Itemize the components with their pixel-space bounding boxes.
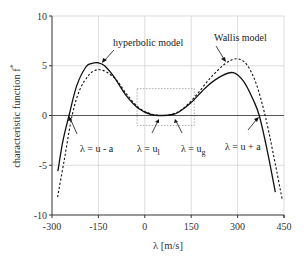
u-g-label: λ = ug xyxy=(181,143,206,157)
x-tick-label: -300 xyxy=(43,221,61,232)
y-axis-title: characteristic function f* xyxy=(9,64,22,168)
y-tick-label: 0 xyxy=(42,110,47,121)
u-plus-a-arrow xyxy=(248,119,257,130)
hyperbolic-model-label: hyperbolic model xyxy=(113,37,183,48)
characteristic-function-chart: -300-1500150300450-10-50510 λ [m/s] char… xyxy=(0,0,304,262)
x-tick-label: 300 xyxy=(230,221,245,232)
hyperbolic-model-curve xyxy=(58,63,275,193)
u-l-arrowhead-icon xyxy=(155,119,159,123)
u-g-arrow xyxy=(176,121,182,133)
y-tick-label: 10 xyxy=(37,11,47,22)
u-g-arrowhead-icon xyxy=(174,119,178,123)
y-tick-label: -10 xyxy=(34,210,47,221)
u-l-label: λ = ul xyxy=(137,143,161,157)
x-tick-label: -150 xyxy=(89,221,107,232)
y-tick-label: -5 xyxy=(39,160,47,171)
u-plus-a-label: λ = u + a xyxy=(225,141,261,152)
wallis-arrowhead-icon xyxy=(221,57,226,62)
u-l-arrow xyxy=(152,121,158,133)
x-axis-title: λ [m/s] xyxy=(153,240,183,251)
u-minus-a-arrow xyxy=(70,118,77,134)
x-tick-label: 450 xyxy=(277,221,292,232)
x-tick-label: 150 xyxy=(184,221,199,232)
x-tick-label: 0 xyxy=(142,221,147,232)
wallis-model-label: Wallis model xyxy=(214,32,267,43)
wallis-arrow xyxy=(216,46,224,59)
u-minus-a-label: λ = u - a xyxy=(80,143,114,154)
y-tick-label: 5 xyxy=(42,60,47,71)
